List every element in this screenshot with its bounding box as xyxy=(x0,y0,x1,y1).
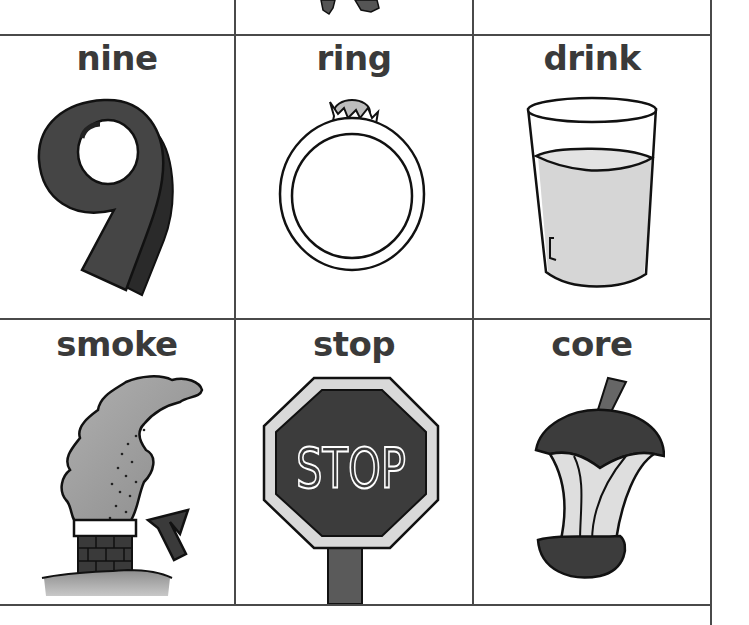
cropped-illustration-fragment-icon xyxy=(315,0,385,16)
word-card-ring: ring xyxy=(236,36,472,318)
ring-icon xyxy=(276,96,426,276)
stop-sign-text: STOP xyxy=(296,435,406,500)
chimney-smoke-icon xyxy=(40,372,210,597)
glass-of-drink-icon xyxy=(526,96,666,296)
word-label: nine xyxy=(0,38,234,78)
grid-line-right xyxy=(710,0,712,625)
word-card-drink: drink xyxy=(474,36,710,318)
word-card-nine: nine xyxy=(0,36,234,318)
word-card-core: core xyxy=(474,320,710,604)
grid-line-bottom xyxy=(0,604,712,606)
apple-core-icon xyxy=(530,370,665,585)
word-label: stop xyxy=(236,324,472,364)
word-card-smoke: smoke xyxy=(0,320,234,604)
word-label: smoke xyxy=(0,324,234,364)
stop-sign-icon: STOP xyxy=(262,376,440,604)
word-card-stop: stop STOP xyxy=(236,320,472,604)
word-label: drink xyxy=(474,38,710,78)
number-nine-icon xyxy=(34,90,184,300)
word-label: ring xyxy=(236,38,472,78)
word-label: core xyxy=(474,324,710,364)
